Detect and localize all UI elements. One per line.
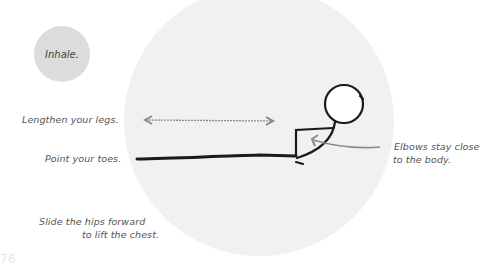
stick-figure <box>296 85 363 164</box>
cue-hips-line2: to lift the chest. <box>82 229 159 241</box>
legs-line <box>137 155 296 159</box>
page-number: 76 <box>0 252 15 266</box>
double-arrow-icon <box>145 116 273 125</box>
cue-lengthen-legs: Lengthen your legs. <box>22 114 119 126</box>
cue-point-toes: Point your toes. <box>45 153 121 165</box>
cue-hips-line1: Slide the hips forward <box>39 216 145 228</box>
cue-elbows-line1: Elbows stay close <box>394 141 480 153</box>
cue-elbows-line2: to the body. <box>393 154 451 166</box>
